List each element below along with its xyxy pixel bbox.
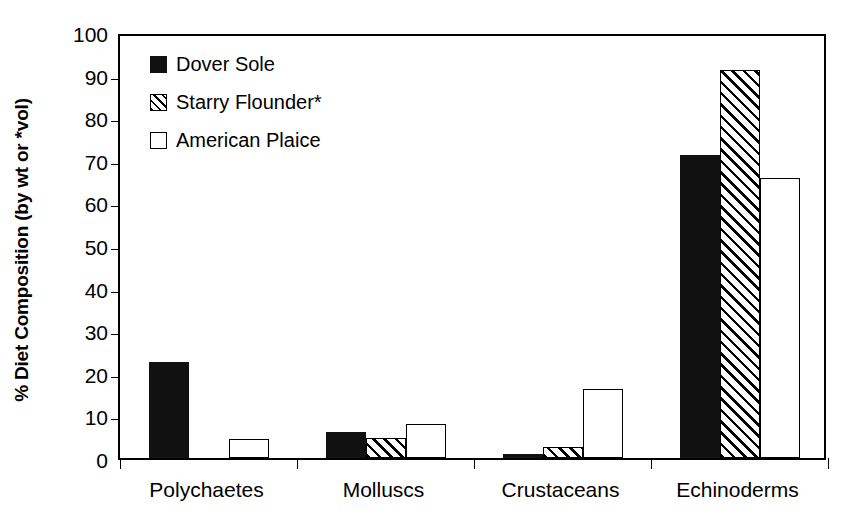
- bar: [366, 438, 406, 458]
- bar-group: [651, 36, 828, 458]
- y-axis-tick-label: 80: [46, 109, 108, 130]
- y-axis-tick-mark: [111, 419, 120, 420]
- y-axis-tick-mark: [111, 292, 120, 293]
- y-axis-tick-label: 40: [46, 279, 108, 300]
- y-axis-tick-mark: [111, 79, 120, 80]
- x-axis-tick-mark: [474, 458, 475, 469]
- x-axis-category-label: Polychaetes: [149, 478, 263, 502]
- y-axis-tick-label: 50: [46, 237, 108, 258]
- x-axis-category-label: Molluscs: [343, 478, 425, 502]
- x-axis-tick-mark: [651, 458, 652, 469]
- y-axis-tick-label: 0: [46, 450, 108, 471]
- x-axis-category-label: Echinoderms: [676, 478, 799, 502]
- diet-composition-bar-chart: % Diet Composition (by wt or *vol) 01020…: [0, 0, 852, 530]
- bar: [680, 155, 720, 458]
- bar: [720, 70, 760, 459]
- y-axis-tick-mark: [111, 334, 120, 335]
- bar: [229, 439, 269, 458]
- legend-item: American Plaice: [150, 124, 380, 156]
- bar: [543, 447, 583, 458]
- legend-swatch-icon: [150, 132, 167, 149]
- chart-legend: Dover SoleStarry Flounder*American Plaic…: [150, 48, 380, 162]
- y-axis-title: % Diet Composition (by wt or *vol): [11, 98, 33, 402]
- legend-label: Dover Sole: [176, 54, 275, 74]
- y-axis-tick-label: 10: [46, 407, 108, 428]
- legend-item: Dover Sole: [150, 48, 380, 80]
- bar: [583, 389, 623, 458]
- x-axis-tick-mark: [120, 458, 121, 469]
- bar: [503, 454, 543, 458]
- y-axis-tick-label: 30: [46, 322, 108, 343]
- y-axis-tick-mark: [111, 121, 120, 122]
- x-axis-category-labels: PolychaetesMolluscsCrustaceansEchinoderm…: [118, 478, 826, 512]
- y-axis-tick-label: 70: [46, 151, 108, 172]
- y-axis-tick-label: 90: [46, 66, 108, 87]
- x-axis-tick-mark: [828, 458, 829, 469]
- y-axis-title-container: % Diet Composition (by wt or *vol): [0, 0, 44, 500]
- legend-item: Starry Flounder*: [150, 86, 380, 118]
- y-axis-tick-mark: [111, 377, 120, 378]
- legend-label: American Plaice: [176, 130, 321, 150]
- legend-swatch-icon: [150, 56, 167, 73]
- bar: [149, 362, 189, 458]
- y-axis-tick-label: 100: [46, 24, 108, 45]
- y-axis-tick-label: 20: [46, 364, 108, 385]
- bar: [406, 424, 446, 458]
- y-axis-tick-mark: [111, 206, 120, 207]
- bar: [760, 178, 800, 458]
- x-axis-category-label: Crustaceans: [502, 478, 620, 502]
- legend-label: Starry Flounder*: [176, 92, 322, 112]
- y-axis-tick-mark: [111, 164, 120, 165]
- bar: [326, 432, 366, 458]
- y-axis-tick-mark: [111, 249, 120, 250]
- y-axis-tick-label: 60: [46, 194, 108, 215]
- legend-swatch-icon: [150, 94, 167, 111]
- y-axis-tick-labels: 0102030405060708090100: [46, 0, 108, 530]
- bar-group: [474, 36, 651, 458]
- x-axis-tick-mark: [297, 458, 298, 469]
